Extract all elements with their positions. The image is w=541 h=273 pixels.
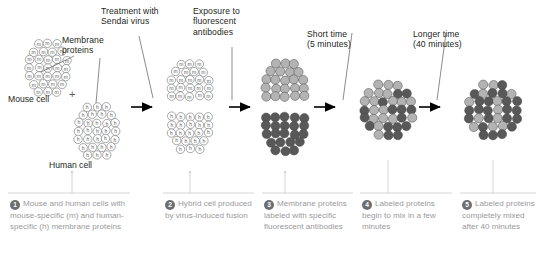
svg-text:m: m — [206, 93, 210, 99]
svg-text:m: m — [55, 56, 59, 62]
caption-text-5: Labeled proteins completely mixed after … — [462, 199, 535, 231]
svg-text:h: h — [82, 145, 85, 151]
membrane-proteins-label: Membrane proteins — [62, 35, 126, 56]
svg-text:m: m — [60, 81, 64, 87]
caption-1: 1Mouse and human cells with mouse-specif… — [10, 198, 134, 232]
svg-text:m: m — [37, 41, 41, 47]
svg-text:h: h — [86, 104, 89, 110]
caption-text-3: Membrane proteins labeled with specific … — [264, 199, 347, 231]
svg-text:m: m — [207, 85, 211, 91]
svg-text:h: h — [114, 128, 117, 134]
plus-sign: + — [69, 89, 75, 100]
svg-text:m: m — [31, 49, 35, 55]
svg-text:m: m — [37, 56, 41, 62]
svg-text:m: m — [32, 82, 36, 88]
svg-text:m: m — [187, 94, 191, 100]
caption-2: 2Hybrid cell produced by virus-induced f… — [165, 198, 253, 221]
svg-text:h: h — [207, 129, 210, 135]
svg-text:m: m — [41, 49, 45, 55]
svg-text:m: m — [179, 84, 183, 90]
svg-text:m: m — [37, 73, 41, 79]
svg-text:h: h — [189, 121, 192, 127]
figure-canvas: mmmmmmmmmmmmmmmmmmmmmmmmmmmmm hhhhhhhhhh… — [0, 0, 541, 273]
svg-text:m: m — [50, 49, 54, 55]
svg-text:m: m — [46, 57, 50, 63]
svg-text:h: h — [114, 137, 117, 143]
svg-text:h: h — [207, 114, 210, 120]
svg-text:m: m — [197, 61, 201, 67]
svg-text:m: m — [51, 81, 55, 87]
svg-text:h: h — [179, 146, 182, 152]
caption-text-4: Labeled proteins begin to mix in a few m… — [362, 199, 436, 231]
svg-text:h: h — [96, 128, 99, 134]
svg-text:m: m — [179, 61, 183, 67]
svg-text:h: h — [170, 122, 173, 128]
svg-text:h: h — [105, 152, 108, 158]
human-cell-label: Human cell — [49, 160, 92, 170]
svg-text:m: m — [27, 65, 31, 71]
caption-4: 4Labeled proteins begin to mix in a few … — [362, 198, 454, 232]
svg-text:m: m — [64, 74, 68, 80]
svg-text:m: m — [187, 61, 191, 67]
svg-text:h: h — [87, 120, 90, 126]
svg-text:h: h — [96, 104, 99, 110]
svg-text:h: h — [114, 120, 117, 126]
svg-text:h: h — [77, 128, 80, 134]
svg-text:h: h — [86, 152, 89, 158]
svg-text:h: h — [197, 130, 200, 136]
svg-text:m: m — [179, 77, 183, 83]
svg-text:m: m — [192, 69, 196, 75]
svg-text:h: h — [105, 104, 108, 110]
svg-text:m: m — [207, 78, 211, 84]
svg-text:m: m — [64, 66, 68, 72]
process-label-exposure: Exposure to fluorescent antibodies — [193, 6, 263, 37]
svg-text:m: m — [198, 92, 202, 98]
caption-number-5: 5 — [462, 200, 472, 210]
svg-text:h: h — [105, 121, 108, 127]
svg-text:h: h — [91, 111, 94, 117]
svg-text:h: h — [91, 144, 94, 150]
svg-text:h: h — [96, 136, 99, 142]
labeled-cell-diagram — [261, 59, 309, 156]
svg-text:h: h — [110, 112, 113, 118]
svg-text:m: m — [54, 89, 58, 95]
svg-text:m: m — [188, 77, 192, 83]
svg-text:m: m — [188, 85, 192, 91]
caption-number-3: 3 — [264, 200, 274, 210]
svg-text:h: h — [82, 112, 85, 118]
svg-text:m: m — [55, 65, 59, 71]
partially-mixed-cell-diagram — [360, 80, 417, 140]
svg-text:h: h — [198, 122, 201, 128]
fully-mixed-cell-diagram — [464, 80, 522, 140]
svg-text:m: m — [201, 69, 205, 75]
svg-text:m: m — [45, 73, 49, 79]
svg-text:h: h — [77, 136, 80, 142]
svg-text:m: m — [173, 68, 177, 74]
process-label-short-time: Short time (5 minutes) — [307, 29, 379, 50]
human-cell-diagram: hhhhhhhhhhhhhhhhhhhhhhhhhhhhh — [74, 103, 120, 160]
caption-3: 3Membrane proteins labeled with specific… — [264, 198, 352, 232]
svg-text:h: h — [77, 119, 80, 125]
svg-text:m: m — [41, 81, 45, 87]
svg-text:m: m — [197, 77, 201, 83]
caption-number-4: 4 — [362, 200, 372, 210]
svg-text:m: m — [169, 77, 173, 83]
svg-text:h: h — [101, 144, 104, 150]
svg-text:m: m — [55, 73, 59, 79]
svg-text:m: m — [28, 56, 32, 62]
svg-text:h: h — [104, 135, 107, 141]
svg-text:m: m — [170, 93, 174, 99]
caption-text-1: Mouse and human cells with mouse-specifi… — [10, 199, 125, 231]
svg-text:h: h — [198, 114, 201, 120]
svg-text:m: m — [196, 85, 200, 91]
svg-text:m: m — [45, 40, 49, 46]
svg-text:m: m — [178, 93, 182, 99]
svg-text:m: m — [184, 69, 188, 75]
svg-text:m: m — [169, 85, 173, 91]
svg-text:h: h — [179, 130, 182, 136]
svg-text:h: h — [105, 128, 108, 134]
mouse-cell-label: Mouse cell — [8, 94, 49, 104]
svg-text:h: h — [194, 138, 197, 144]
svg-text:h: h — [184, 138, 187, 144]
svg-text:h: h — [198, 146, 201, 152]
